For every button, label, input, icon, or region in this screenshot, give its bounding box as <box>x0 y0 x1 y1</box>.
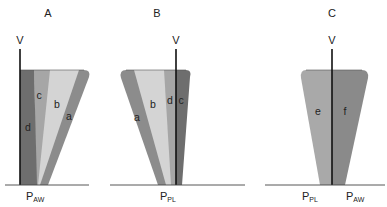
panel-b-label-d: d <box>167 94 173 106</box>
panel-b-label-a: a <box>134 111 140 123</box>
panel-c-segment-f <box>332 70 368 185</box>
panel-b-pressure-label: PPL <box>160 190 176 203</box>
panel-a-label-d: d <box>25 121 31 133</box>
panel-a-pressure-label: PAW <box>26 190 45 203</box>
panel-c-left-pressure-label: PPL <box>302 190 318 203</box>
panel-c-segment-e <box>301 70 332 185</box>
panel-b-label-b: b <box>150 98 156 110</box>
panel-a-volume-label: V <box>16 34 24 46</box>
panel-a-label-a: a <box>66 110 72 122</box>
panel-c-label-e: e <box>315 105 321 117</box>
panel-c-volume-label: V <box>328 34 336 46</box>
diagram-canvas: A V c b a d PAW B V <box>0 0 387 207</box>
panel-c-title: C <box>328 7 336 19</box>
panel-c-label-f: f <box>344 105 347 117</box>
panel-a-label-c: c <box>36 89 41 101</box>
panel-b: B V b d c a PPL <box>110 7 245 203</box>
panel-a: A V c b a d PAW <box>5 7 89 203</box>
panel-b-label-c: c <box>178 94 183 106</box>
panel-a-title: A <box>44 7 52 19</box>
panel-b-title: B <box>153 7 160 19</box>
panel-c: C V e f PPL PAW <box>265 7 385 203</box>
panel-c-right-pressure-label: PAW <box>346 190 365 203</box>
panel-b-segment-c <box>176 70 191 185</box>
panel-a-label-b: b <box>54 98 60 110</box>
panel-b-volume-label: V <box>172 34 180 46</box>
